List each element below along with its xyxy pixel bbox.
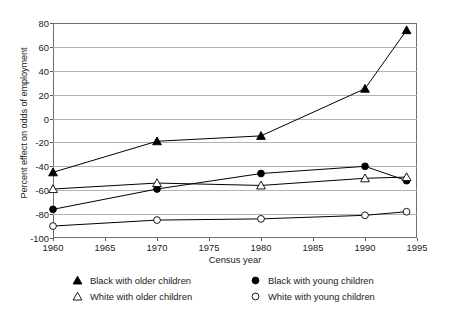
data-point-filled-circle	[258, 170, 265, 177]
legend-label: Black with older children	[90, 275, 191, 286]
data-point-open-triangle	[73, 292, 82, 300]
legend-label: White with young children	[268, 291, 375, 302]
data-point-filled-triangle	[73, 276, 82, 284]
x-tick-label: 1990	[355, 242, 376, 253]
data-point-open-circle	[50, 223, 57, 230]
y-tick-label: 20	[39, 89, 49, 100]
x-tick-mark	[313, 238, 314, 241]
x-tick-label: 1975	[199, 242, 220, 253]
legend-item: Black with young children	[250, 272, 432, 288]
series-line	[53, 30, 407, 172]
series-line	[53, 177, 407, 189]
y-tick-label: 0	[44, 113, 49, 124]
y-tick-label: -80	[35, 209, 49, 220]
x-tick-label: 1985	[303, 242, 324, 253]
x-tick-label: 1995	[407, 242, 428, 253]
series-line	[53, 166, 407, 209]
legend-label: Black with young children	[268, 275, 374, 286]
data-point-open-circle	[362, 212, 369, 219]
legend-item: White with older children	[72, 288, 250, 304]
x-tick-mark	[105, 238, 106, 241]
data-point-filled-triangle	[257, 132, 266, 140]
x-tick-mark	[261, 238, 262, 241]
x-tick-label: 1960	[43, 242, 64, 253]
y-tick-label: -40	[35, 161, 49, 172]
legend-label: White with older children	[90, 291, 192, 302]
data-point-open-circle	[154, 217, 161, 224]
x-tick-mark	[365, 238, 366, 241]
plot-area: 806040200-20-40-60-80-100 19601965197019…	[53, 23, 417, 238]
data-point-filled-circle	[252, 277, 259, 284]
x-tick-mark	[157, 238, 158, 241]
data-point-open-circle	[258, 215, 265, 222]
data-point-open-circle	[252, 293, 259, 300]
data-point-filled-triangle	[402, 26, 411, 34]
x-tick-mark	[209, 238, 210, 241]
x-tick-label: 1970	[147, 242, 168, 253]
legend-item: White with young children	[250, 288, 432, 304]
y-tick-label: 60	[39, 41, 49, 52]
x-tick-label: 1965	[95, 242, 116, 253]
x-tick-label: 1980	[251, 242, 272, 253]
data-point-filled-triangle	[49, 168, 58, 176]
y-tick-label: 40	[39, 65, 49, 76]
y-tick-label: -20	[35, 137, 49, 148]
chart-legend: Black with older childrenBlack with youn…	[72, 272, 432, 304]
x-tick-mark	[417, 238, 418, 241]
series-plot	[53, 23, 417, 238]
data-point-open-circle	[403, 208, 410, 215]
data-point-filled-circle	[50, 206, 57, 213]
data-point-filled-triangle	[361, 84, 370, 92]
x-axis-title: Census year	[53, 254, 417, 265]
y-axis-title: Percent effect on odds of employment	[19, 13, 29, 233]
y-tick-label: 80	[39, 18, 49, 29]
y-tick-label: -60	[35, 185, 49, 196]
legend-marker-open-circle	[250, 291, 261, 302]
x-tick-mark	[53, 238, 54, 241]
series-line	[53, 212, 407, 226]
legend-marker-filled-triangle	[72, 275, 83, 286]
legend-marker-filled-circle	[250, 275, 261, 286]
chart-figure: Percent effect on odds of employment 806…	[0, 0, 449, 313]
legend-marker-open-triangle	[72, 291, 83, 302]
legend-item: Black with older children	[72, 272, 250, 288]
data-point-filled-circle	[362, 163, 369, 170]
